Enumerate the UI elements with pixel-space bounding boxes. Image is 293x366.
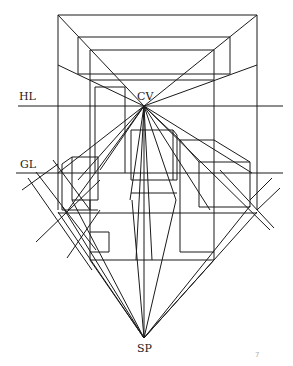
corner-mark: 7 — [255, 351, 259, 359]
right-cube — [180, 140, 250, 252]
room-back-wall — [78, 37, 230, 260]
small-floor-box — [90, 232, 109, 252]
ground-line-label: GL — [20, 158, 37, 171]
corner-diagonals — [58, 15, 257, 106]
sp-rays — [58, 200, 257, 338]
perspective-diagram: HL GL CV — [0, 0, 293, 366]
horizon-line-label: HL — [19, 90, 37, 103]
left-cube — [62, 157, 98, 210]
back-opening — [95, 87, 125, 173]
outer-frame — [58, 15, 257, 210]
sp-label: SP — [137, 342, 153, 355]
left-measure-lines — [22, 160, 100, 270]
